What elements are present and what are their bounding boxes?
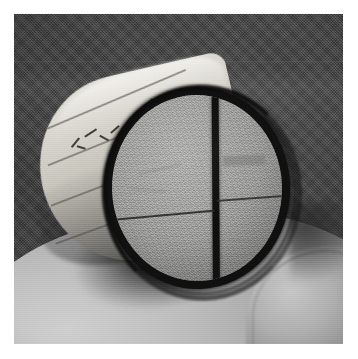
photo-frame: Grayscale photograph of a short cylindri… [0,0,358,359]
specimen-end-face [101,84,294,292]
photograph [14,14,343,344]
handwriting-stroke-2 [77,145,86,150]
handwriting-stroke-3 [84,128,97,137]
image-caption: Grayscale photograph of a short cylindri… [0,0,1,1]
